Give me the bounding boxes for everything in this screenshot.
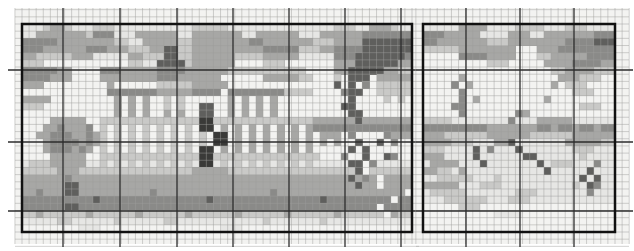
left-panel-palace-pattern: [22, 24, 412, 232]
right-panel-field-pattern: [423, 24, 615, 232]
cross-stitch-chart-page: [0, 0, 634, 251]
